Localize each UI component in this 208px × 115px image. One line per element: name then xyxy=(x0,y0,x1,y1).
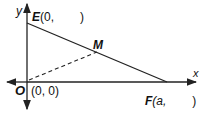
segment-OM-dashed xyxy=(29,52,97,80)
point-O-coords: (0, 0) xyxy=(31,85,59,97)
point-E-coords-suffix: ) xyxy=(80,10,84,24)
point-E-name: E xyxy=(32,10,40,24)
point-E-label: E(0,) xyxy=(32,11,84,23)
x-axis-label: x xyxy=(193,67,199,79)
y-axis-label: y xyxy=(16,5,22,17)
point-E-coords-prefix: (0, xyxy=(40,10,54,24)
point-O-label: O xyxy=(15,85,25,97)
point-F-label: F(a,) xyxy=(145,95,196,107)
point-M-label: M xyxy=(93,39,103,51)
point-F-coords-suffix: ) xyxy=(192,94,196,108)
point-F-coords-prefix: (a, xyxy=(152,94,166,108)
